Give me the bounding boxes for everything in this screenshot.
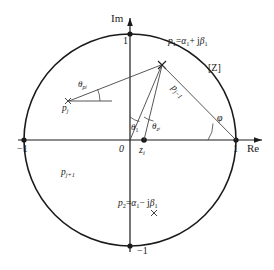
tick-label-re-neg1: −1: [17, 144, 28, 154]
tick-label-re-pos1: 1: [233, 144, 238, 154]
tick-dot-im-neg1: [127, 243, 132, 248]
theta-zi-sub-sub: i: [159, 126, 160, 131]
imag-axis-arrow-icon: [127, 18, 133, 26]
point-label-p1: p1=α1+ jβ1: [168, 37, 208, 47]
tick-dot-re-neg1: [21, 137, 26, 142]
figure-canvas: Im Re 1 −1 −1 1 0 zi p1=α1+ jβ1 [Z] pj−1…: [0, 0, 274, 270]
angle-arc-theta-pj: [98, 89, 101, 101]
zi-sub: i: [143, 149, 145, 156]
point-label-pj: pj: [62, 104, 69, 114]
point-label-pj-plus-1: pj+1: [61, 168, 75, 178]
tick-label-im-neg1: −1: [137, 246, 148, 256]
axis-label-im: Im: [111, 13, 123, 24]
angle-label-phi: φ: [217, 113, 223, 123]
p1-beta-sub: 1: [205, 40, 208, 47]
pjp1-sub: j+1: [66, 171, 75, 178]
angle-arc-theta-1: [130, 117, 140, 122]
unit-circle-diagram-svg: [0, 0, 274, 270]
tick-label-im-pos1: 1: [123, 36, 128, 46]
theta-1-sub: 1: [135, 127, 138, 133]
p2-minus: − j: [139, 198, 149, 208]
axis-label-re: Re: [247, 143, 259, 154]
point-label-zi: zi: [139, 145, 145, 156]
angle-label-theta-pj: θpj: [78, 80, 87, 91]
vector-one-to-p1: [163, 66, 236, 140]
angle-label-theta-zi: θzi: [152, 122, 160, 133]
pj-sub: j: [67, 107, 69, 114]
plane-label-z: [Z]: [208, 63, 221, 73]
point-label-p2: p2=α1− jβ1: [118, 199, 158, 209]
point-p2-marker: [151, 210, 157, 216]
angle-arc-phi: [208, 124, 213, 141]
p2-beta-sub: 1: [155, 202, 158, 209]
tick-dot-im-pos1: [127, 31, 132, 36]
theta-pj-sub-sub: j: [85, 84, 86, 89]
angle-label-theta-1: θ1: [131, 123, 138, 134]
origin-label: 0: [119, 144, 124, 154]
p1-plus: + j: [189, 36, 199, 46]
